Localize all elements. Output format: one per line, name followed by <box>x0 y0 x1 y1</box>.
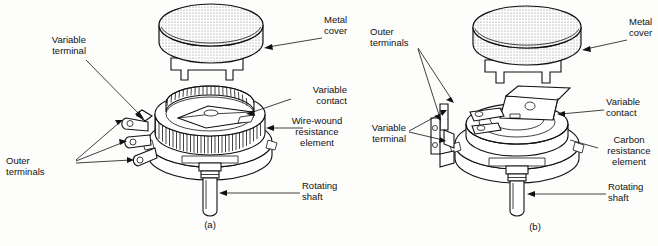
panel-a-caption: (a) <box>185 219 235 230</box>
panel-b-label-outer-terminals: Outer terminals <box>370 26 430 48</box>
panel-b-label-rotating-shaft: Rotating shaft <box>608 181 658 203</box>
panel-b-label-variable-terminal: Variable terminal <box>336 122 406 144</box>
panel-a-metal-cover <box>159 4 263 80</box>
panel-a-label-rotating-shaft: Rotating shaft <box>302 180 362 202</box>
panel-b-caption: (b) <box>510 221 560 232</box>
panel-a-label-variable-terminal: Variable terminal <box>18 34 86 56</box>
panel-a-label-outer-terminals: Outer terminals <box>6 155 76 177</box>
panel-a-label-variable-contact: Variable contact <box>285 84 347 106</box>
panel-b-rotating-shaft <box>506 166 528 216</box>
panel-b-metal-cover <box>473 6 581 83</box>
panel-b-label-variable-contact: Variable contact <box>606 96 658 118</box>
panel-b-label-metal-cover: Metal cover <box>629 16 658 38</box>
panel-a-rotating-shaft <box>199 163 221 216</box>
panel-b-label-carbon-element: Carbon resistance element <box>600 134 658 167</box>
potentiometer-figure: Variable terminal Outer terminals Metal … <box>0 0 658 246</box>
